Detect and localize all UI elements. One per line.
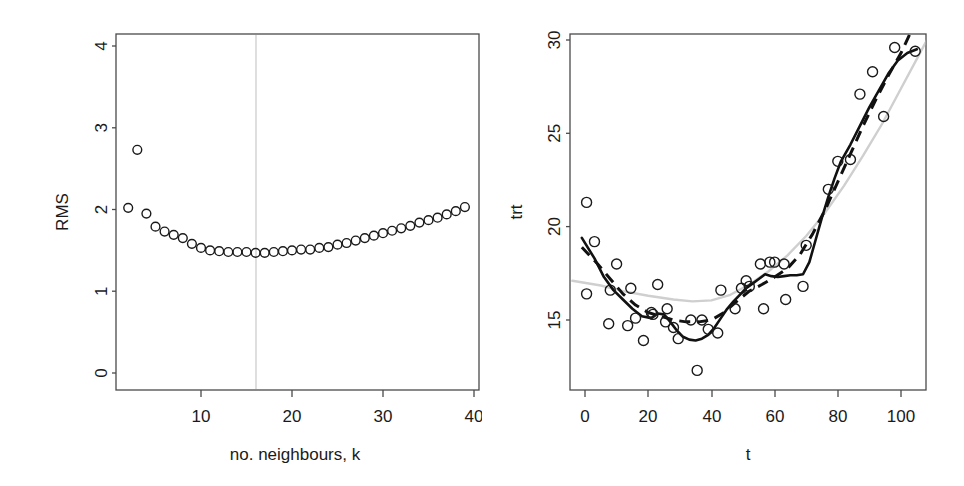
data-point [692,365,702,375]
data-point [324,243,333,252]
data-point [755,259,765,269]
right-ytick-25: 25 [545,124,564,143]
left-ytick-4: 4 [92,41,111,50]
data-point [342,239,351,248]
data-point [169,230,178,239]
left-ytick-2: 2 [92,205,111,214]
right-plot-frame [570,34,926,390]
data-point [379,229,388,238]
data-point [582,289,592,299]
data-point [798,281,808,291]
data-point [623,321,633,331]
data-point [351,236,360,245]
panel-rms-vs-k: 4 3 2 1 0 RMS 10 20 30 40 [0,0,482,486]
left-xtick-40: 40 [465,407,482,426]
data-point [406,221,415,230]
data-point [589,237,599,247]
data-point [673,334,683,344]
data-point [160,227,169,236]
data-point [424,216,433,225]
data-point [582,197,592,207]
data-point [279,247,288,256]
left-ytick-3: 3 [92,123,111,132]
data-point [730,304,740,314]
data-point [868,67,878,77]
data-point [269,248,278,257]
data-point [370,231,379,240]
data-point [215,247,224,256]
panel-trt-vs-t: 30 25 20 15 trt [482,0,964,486]
data-point [781,294,791,304]
data-point [433,213,442,222]
data-point [716,285,726,295]
left-y-axis-label: RMS [53,193,72,231]
data-point [779,259,789,269]
right-xtick-0: 0 [580,407,589,426]
data-point [242,248,251,257]
data-point [197,244,206,253]
data-point [686,315,696,325]
right-xtick-20: 20 [639,407,658,426]
left-x-axis: 10 20 30 40 [192,390,482,426]
data-point [360,234,369,243]
data-point [260,248,269,257]
right-y-axis: 30 25 20 15 [545,31,570,330]
data-point [604,319,614,329]
data-point [333,240,342,249]
left-xtick-10: 10 [192,407,211,426]
data-point [662,304,672,314]
data-point [415,218,424,227]
right-xtick-80: 80 [829,407,848,426]
data-point [653,280,663,290]
left-plot-frame [116,34,479,390]
data-point [855,89,865,99]
data-point [315,244,324,253]
data-point [451,207,460,216]
data-point [288,246,297,255]
figure-root: 4 3 2 1 0 RMS 10 20 30 40 [0,0,964,486]
left-y-axis: 4 3 2 1 0 [92,41,116,377]
data-point [638,336,648,346]
data-point [233,248,242,257]
data-point [188,239,197,248]
right-xtick-40: 40 [703,407,722,426]
right-xtick-100: 100 [887,407,915,426]
right-ytick-15: 15 [545,311,564,330]
left-x-axis-label: no. neighbours, k [230,445,361,464]
data-point [133,145,142,154]
data-point [151,222,160,231]
data-point [461,203,470,212]
data-point [224,248,233,257]
data-point [178,234,187,243]
right-plot-svg: 30 25 20 15 trt [482,0,964,486]
data-point [442,210,451,219]
right-ytick-20: 20 [545,217,564,236]
left-ytick-1: 1 [92,286,111,295]
left-data-points [124,145,470,257]
right-xtick-60: 60 [766,407,785,426]
data-point [890,42,900,52]
right-ytick-30: 30 [545,31,564,50]
right-data-points [582,42,921,375]
data-point [124,203,133,212]
data-point [206,246,215,255]
data-point [297,245,306,254]
data-point [713,328,723,338]
right-x-axis-label: t [746,445,751,464]
data-point [306,245,315,254]
data-point [631,313,641,323]
grey-fit-curve [572,18,939,302]
right-y-axis-label: trt [507,204,526,219]
solid-fit-curve [582,49,917,340]
data-point [759,304,769,314]
left-plot-svg: 4 3 2 1 0 RMS 10 20 30 40 [0,0,482,486]
data-point [612,259,622,269]
right-x-axis: 0 20 40 60 80 100 [580,390,915,426]
data-point [142,209,151,218]
left-xtick-30: 30 [374,407,393,426]
data-point [397,224,406,233]
left-xtick-20: 20 [283,407,302,426]
left-ytick-0: 0 [92,368,111,377]
data-point [388,226,397,235]
